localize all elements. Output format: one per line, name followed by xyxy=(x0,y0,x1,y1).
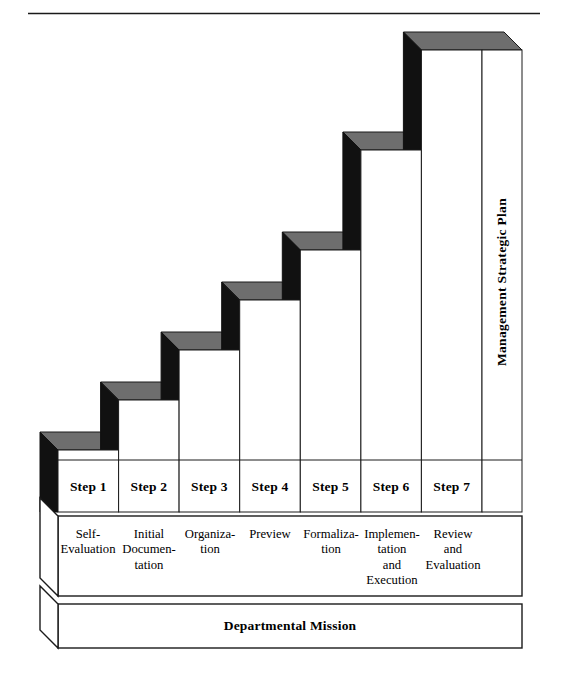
step-2-front-face xyxy=(119,400,180,512)
description-line: tation xyxy=(113,558,185,573)
description-line: Review xyxy=(417,527,489,542)
step-label-5: Step 5 xyxy=(300,479,361,495)
description-line: tion xyxy=(174,542,246,557)
mission-row-left-face xyxy=(40,586,58,648)
description-line: and xyxy=(417,542,489,557)
staircase-group xyxy=(40,32,522,512)
diagram-canvas xyxy=(0,0,570,682)
step-7-front-face xyxy=(421,50,482,512)
step-label-2: Step 2 xyxy=(119,479,180,495)
step-label-1: Step 1 xyxy=(58,479,119,495)
staircase-diagram: Step 1 Step 2 Step 3 Step 4 Step 5 Step … xyxy=(0,0,570,682)
description-label-7: ReviewandEvaluation xyxy=(417,527,489,573)
step-label-3: Step 3 xyxy=(179,479,240,495)
step-label-7: Step 7 xyxy=(421,479,482,495)
management-strategic-plan-label: Management Strategic Plan xyxy=(494,162,510,402)
step-6-front-face xyxy=(361,150,422,512)
step-6-riser-face xyxy=(343,132,361,250)
description-line: Evaluation xyxy=(417,558,489,573)
step-7-riser-face xyxy=(403,32,421,150)
description-line: Execution xyxy=(355,573,429,588)
step-5-front-face xyxy=(300,250,361,512)
step-label-4: Step 4 xyxy=(240,479,301,495)
step-label-6: Step 6 xyxy=(361,479,422,495)
departmental-mission-label: Departmental Mission xyxy=(58,618,522,634)
step-7-top-face xyxy=(403,32,522,50)
